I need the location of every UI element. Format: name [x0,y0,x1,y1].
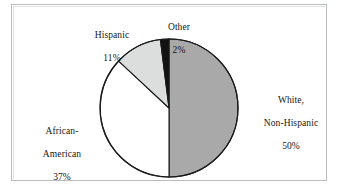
pie-label-other-value: 2% [148,45,210,57]
pie-chart-figure: Other 2% Hispanic 11% White, Non-Hispani… [0,0,337,190]
pie-label-white-non-hispanic-value: 50% [248,141,334,153]
pie-label-hispanic-name: Hispanic [76,30,148,42]
pie-label-hispanic-value: 11% [76,53,148,65]
pie-label-other-name: Other [148,22,210,34]
pie-label-african-american-name-line2: American [26,149,98,161]
pie-label-white-non-hispanic-name-line1: White, [248,95,334,107]
pie-label-hispanic: Hispanic 11% [76,18,148,76]
pie-label-african-american-value: 37% [26,172,98,184]
pie-label-white-non-hispanic-name-line2: Non-Hispanic [248,118,334,130]
pie-label-other: Other 2% [148,10,210,68]
pie-label-african-american-name-line1: African- [26,126,98,138]
pie-label-white-non-hispanic: White, Non-Hispanic 50% [248,83,334,164]
pie-label-african-american: African- American 37% [26,114,98,190]
